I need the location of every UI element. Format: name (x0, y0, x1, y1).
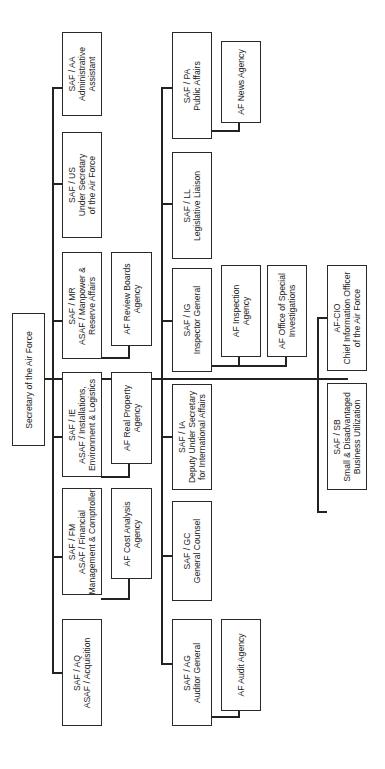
saf-pa-box: SAF / PA Public Affairs (172, 32, 212, 139)
line: Public Affairs (192, 61, 202, 111)
line: Assistant (87, 47, 97, 101)
line: for International Affairs (197, 391, 207, 483)
line: General Counsel (192, 519, 202, 584)
osi-label: AF Office of Special Investigations (277, 273, 297, 349)
link-ag-audit-v (238, 710, 240, 717)
stub-aq (52, 672, 62, 674)
stub-us (52, 183, 62, 185)
saf-ig-box: SAF / IG Inspector General (172, 268, 212, 372)
line: Agency (132, 385, 142, 451)
line: Under Secretary (77, 154, 87, 217)
stub-fm (52, 556, 62, 558)
line: of the Air Force (352, 272, 362, 365)
line: SAF / SB (332, 392, 342, 481)
line: Business Utilization (352, 392, 362, 481)
af-review-boards-agency-box: AF Review Boards Agency (111, 252, 152, 346)
saf-aa-label: SAF / AA Administrative Assistant (67, 47, 97, 101)
link-ie-realprop (101, 476, 130, 478)
link-ie-realprop-v (128, 463, 130, 477)
costanalysis-label: AF Cost Analysis Agency (122, 501, 142, 566)
right-bus (317, 317, 319, 513)
stub-gc (161, 555, 172, 557)
stub-aa (52, 87, 62, 89)
line: SAF / LL (182, 170, 192, 240)
line: Agency (132, 501, 142, 566)
news-label: AF News Agency (236, 49, 246, 114)
af-cio-box: AF-CIO Chief Information Officer of the … (327, 265, 367, 371)
saf-ag-box: SAF / AG Auditor General (172, 619, 212, 726)
realprop-label: AF Real Property Agency (122, 385, 142, 451)
saf-fm-box: SAF / FM ASAF / Financial Management & C… (62, 488, 102, 595)
stub-cio (317, 317, 327, 319)
line: Auditor General (192, 642, 202, 702)
line: AF Cost Analysis (122, 501, 132, 566)
saf-aa-box: SAF / AA Administrative Assistant (62, 32, 102, 116)
secretary-label: Secretary of the Air Force (24, 331, 34, 428)
af-inspection-agency-box: AF Inspection Agency (221, 265, 261, 357)
stub-ag (161, 663, 172, 665)
af-osi-box: AF Office of Special Investigations (267, 265, 307, 357)
line: ASAF / Manpower & (77, 267, 87, 345)
saf-us-box: SAF / US Under Secretary of the Air Forc… (62, 132, 102, 238)
line: Agency (132, 263, 142, 334)
saf-aq-box: SAF / AQ ASAF / Acquisition (62, 619, 102, 726)
secretary-label-text: Secretary of the Air Force (24, 331, 34, 428)
line: AF-CIO (332, 272, 342, 365)
saf-gc-label: SAF / GC General Counsel (182, 519, 202, 584)
link-ag-audit (211, 716, 240, 718)
line: AF Office of Special (277, 273, 287, 349)
line: SAF / AA (67, 47, 77, 101)
link-pa-news-v (238, 122, 240, 131)
saf-ll-box: SAF / LL Legislative Liaison (172, 152, 212, 259)
line: of the Air Force (87, 154, 97, 217)
line: Administrative (77, 47, 87, 101)
line: Investigations (287, 273, 297, 349)
line: SAF / IG (182, 286, 192, 354)
stub-pa (161, 87, 172, 89)
stub-mr (52, 320, 62, 322)
saf-aq-label: SAF / AQ ASAF / Acquisition (72, 637, 92, 708)
line: Management & Comptroller (87, 489, 97, 594)
saf-ie-box: SAF / IE ASAF / Installations, Environme… (62, 372, 102, 477)
af-news-agency-box: AF News Agency (221, 41, 261, 123)
line: AF Review Boards (122, 263, 132, 334)
line: Deputy Under Secretary (187, 391, 197, 483)
stub-ie (52, 436, 62, 438)
line: Chief Information Officer (342, 272, 352, 365)
stub-ll (161, 203, 172, 205)
saf-sb-box: SAF / SB Small & Disadvantaged Business … (327, 383, 367, 490)
cio-label: AF-CIO Chief Information Officer of the … (332, 272, 362, 365)
saf-ie-label: SAF / IE ASAF / Installations, Environme… (67, 378, 97, 470)
link-ig-osi-v (285, 356, 287, 366)
line: Reserve Affairs (87, 267, 97, 345)
link-ig-inspection-v (238, 356, 240, 366)
saf-pa-label: SAF / PA Public Affairs (182, 61, 202, 111)
saf-ia-label: SAF / IA Deputy Under Secretary for Inte… (177, 391, 207, 483)
saf-sb-label: SAF / SB Small & Disadvantaged Business … (332, 392, 362, 481)
saf-ig-label: SAF / IG Inspector General (182, 286, 202, 354)
line: ASAF / Installations, (77, 378, 87, 470)
line: SAF / IA (177, 391, 187, 483)
line: AF Inspection (231, 285, 241, 338)
review-label: AF Review Boards Agency (122, 263, 142, 334)
link-mr-review (101, 357, 130, 359)
saf-ll-label: SAF / LL Legislative Liaison (182, 170, 202, 240)
af-audit-agency-box: AF Audit Agency (221, 619, 261, 711)
line: SAF / PA (182, 61, 192, 111)
link-ig-agencies (211, 365, 287, 367)
link-mr-review-v (128, 345, 130, 358)
saf-ia-box: SAF / IA Deputy Under Secretary for Inte… (172, 384, 212, 490)
line: SAF / IE (67, 378, 77, 470)
saf-gc-box: SAF / GC General Counsel (172, 501, 212, 601)
line: Inspector General (192, 286, 202, 354)
saf-mr-label: SAF / MR ASAF / Manpower & Reserve Affai… (67, 267, 97, 345)
stub-ig (161, 320, 172, 322)
line: SAF / US (67, 154, 77, 217)
audit-label: AF Audit Agency (236, 633, 246, 696)
saf-us-label: SAF / US Under Secretary of the Air Forc… (67, 154, 97, 217)
line: SAF / AG (182, 642, 192, 702)
line: Legislative Liaison (192, 170, 202, 240)
line: SAF / MR (67, 267, 77, 345)
middle-bus (161, 87, 163, 665)
inspection-label: AF Inspection Agency (231, 285, 251, 338)
